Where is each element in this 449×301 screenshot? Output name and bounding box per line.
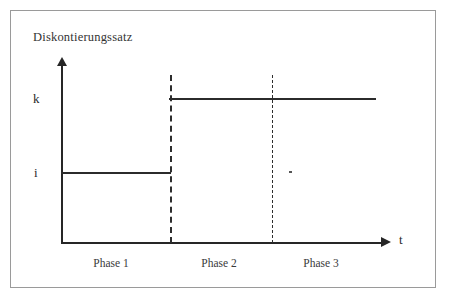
scan-artifact-speck [289, 171, 292, 173]
phase-label-3: Phase 3 [292, 257, 350, 269]
y-axis-line [61, 64, 63, 244]
phase-divider-2 [272, 75, 273, 243]
discount-rate-step-chart: Diskontierungssatz k i t Phase 1 Phase 2… [0, 0, 449, 301]
chart-title: Diskontierungssatz [33, 30, 132, 45]
x-axis-label-t: t [399, 232, 403, 248]
phase-label-1: Phase 1 [82, 257, 140, 269]
phase-label-2: Phase 2 [190, 257, 248, 269]
y-axis-arrow-icon [57, 57, 67, 66]
x-axis-arrow-icon [381, 237, 391, 247]
phase-divider-1 [170, 75, 172, 243]
data-segment-level-i [61, 172, 171, 174]
x-axis-line [61, 242, 383, 244]
y-axis-tick-label-k: k [33, 91, 40, 107]
y-axis-tick-label-i: i [34, 165, 38, 181]
